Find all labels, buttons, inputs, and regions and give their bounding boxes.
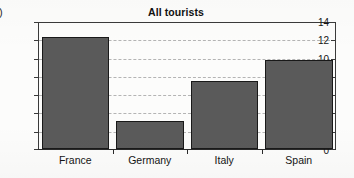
y-axis-tick <box>34 40 38 41</box>
x-axis-tick <box>262 150 263 154</box>
axis-frame-top <box>38 22 336 23</box>
chart-title: All tourists <box>42 6 310 18</box>
plot-area: 02468101214 <box>38 22 336 150</box>
bar-italy <box>191 81 259 149</box>
x-axis-label-france: France <box>59 154 92 166</box>
axis-frame-right <box>335 22 336 150</box>
figure-panel: a) All tourists 02468101214 FranceGerman… <box>0 0 354 178</box>
x-axis-tick <box>113 150 114 154</box>
y-axis-tick <box>34 95 38 96</box>
y-axis-tick <box>34 22 38 23</box>
panel-label: a) <box>0 6 3 18</box>
x-axis-label-italy: Italy <box>215 154 234 166</box>
bar-spain <box>265 60 333 150</box>
y-axis-tick <box>34 132 38 133</box>
y-axis-tick <box>34 149 38 150</box>
y-axis-label: 12 <box>318 35 329 46</box>
y-axis-tick <box>34 113 38 114</box>
y-axis-tick-right <box>331 22 335 23</box>
y-axis-tick-right <box>331 40 335 41</box>
x-axis-tick <box>187 150 188 154</box>
y-axis-tick <box>34 77 38 78</box>
x-axis-label-germany: Germany <box>128 154 171 166</box>
y-axis-label: 14 <box>318 17 329 28</box>
bar-france <box>42 37 110 149</box>
y-axis-tick-right <box>331 149 335 150</box>
y-axis-tick <box>34 59 38 60</box>
x-axis-label-spain: Spain <box>285 154 312 166</box>
bar-germany <box>116 121 184 149</box>
